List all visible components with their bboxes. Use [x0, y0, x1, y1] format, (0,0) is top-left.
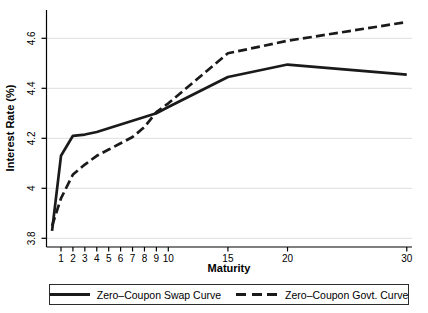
x-tick-label: 9: [154, 253, 160, 264]
series-lines: [52, 22, 407, 231]
x-axis-title: Maturity: [208, 262, 252, 274]
x-tick-label: 20: [282, 253, 294, 264]
x-tick-label: 6: [118, 253, 124, 264]
legend-label-govt: Zero–Coupon Govt. Curve: [285, 289, 408, 301]
x-tick-label: 2: [70, 253, 76, 264]
x-tick-label: 30: [401, 253, 413, 264]
dashed-line-sample-icon: [236, 293, 278, 296]
x-tick-label: 4: [94, 253, 100, 264]
y-axis-title: Interest Rate (%): [4, 84, 16, 171]
legend: Zero–Coupon Swap Curve Zero–Coupon Govt.…: [49, 284, 409, 305]
legend-label-swap: Zero–Coupon Swap Curve: [97, 289, 221, 301]
y-tick-label: 4.6: [26, 31, 37, 45]
y-tick-label: 3.8: [26, 231, 37, 245]
x-tick-label: 5: [106, 253, 112, 264]
y-tick-label: 4: [26, 185, 37, 191]
axes: [47, 10, 413, 247]
series-line-solid: [52, 65, 407, 231]
x-tick-label: 10: [163, 253, 175, 264]
series-line-dashed: [52, 22, 407, 226]
tick-labels: 3.844.24.44.612345678910152030: [26, 31, 413, 264]
chart-figure: 3.844.24.44.612345678910152030 Interest …: [0, 0, 428, 313]
legend-item-govt: Zero–Coupon Govt. Curve: [236, 289, 408, 301]
x-tick-label: 7: [130, 253, 136, 264]
x-tick-label: 3: [82, 253, 88, 264]
y-tick-label: 4.2: [26, 131, 37, 145]
solid-line-sample-icon: [50, 293, 90, 296]
plot-area: 3.844.24.44.612345678910152030 Interest …: [0, 0, 428, 282]
x-tick-label: 8: [142, 253, 148, 264]
legend-item-swap: Zero–Coupon Swap Curve: [50, 289, 221, 301]
x-tick-label: 1: [58, 253, 64, 264]
gridlines: [47, 38, 413, 238]
y-tick-label: 4.4: [26, 81, 37, 95]
